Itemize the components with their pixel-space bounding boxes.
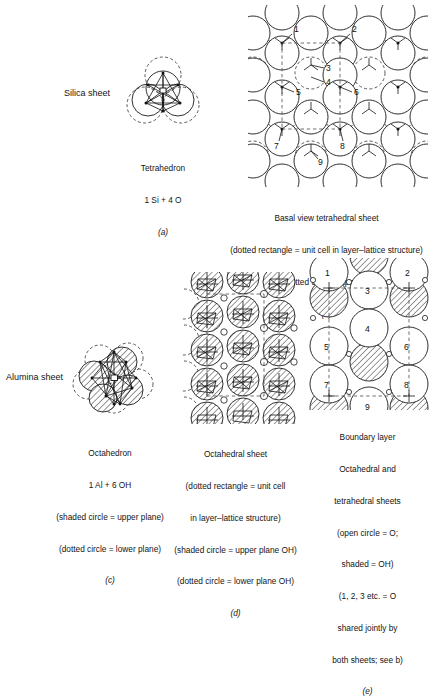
panel-d-caption-line-4: (dotted circle = lower plane OH) bbox=[148, 576, 323, 587]
panel-e-caption-line-6: shared jointly by bbox=[300, 623, 435, 634]
panel-d-caption: Octahedral sheet (dotted rectangle = uni… bbox=[148, 428, 323, 640]
panel-d-caption-line-1: (dotted rectangle = unit cell bbox=[148, 481, 323, 492]
panel-e-caption-line-3: (open circle = O; bbox=[300, 528, 435, 539]
panel-b-number-2: 2 bbox=[352, 24, 357, 34]
panel-c-drawing bbox=[70, 338, 162, 424]
panel-e-number-1: 1 bbox=[325, 268, 330, 278]
panel-b-number-8: 8 bbox=[340, 141, 345, 151]
panel-b-number-3: 3 bbox=[326, 63, 331, 73]
panel-e-caption: Boundary layer Octahedral and tetrahedra… bbox=[300, 411, 435, 700]
panel-b-number-1: 1 bbox=[294, 24, 299, 34]
panel-e-number-7: 7 bbox=[324, 380, 329, 390]
panel-a-caption-line-1: 1 Si + 4 O bbox=[93, 195, 233, 206]
panel-e-caption-line-2: tetrahedral sheets bbox=[300, 496, 435, 507]
panel-b-tetrahedral-sheet: 1 2 3 4 5 6 7 8 9 bbox=[248, 5, 428, 187]
panel-b-caption-line-0: Basal view tetrahedral sheet bbox=[218, 213, 435, 224]
panel-a-drawing bbox=[120, 55, 206, 141]
panel-e-key: (e) bbox=[300, 686, 435, 697]
alumina-sheet-label: Alumina sheet bbox=[6, 372, 63, 382]
panel-b-number-5: 5 bbox=[296, 87, 301, 97]
panel-d-key: (d) bbox=[148, 608, 323, 619]
panel-e-number-5: 5 bbox=[324, 342, 329, 352]
panel-a-tetrahedron bbox=[120, 55, 206, 141]
panel-d-drawing bbox=[182, 272, 304, 424]
panel-d-octahedral-sheet bbox=[182, 272, 304, 424]
panel-e-number-8: 8 bbox=[404, 380, 409, 390]
panel-b-drawing: 1 2 3 4 5 6 7 8 9 bbox=[248, 5, 428, 187]
panel-d-caption-line-3: (shaded circle = upper plane OH) bbox=[148, 545, 323, 556]
panel-e-caption-line-0: Boundary layer bbox=[300, 432, 435, 443]
panel-e-caption-line-4: shaded = OH) bbox=[300, 559, 435, 570]
panel-e-caption-line-7: both sheets; see b) bbox=[300, 655, 435, 666]
panel-b-number-6: 6 bbox=[354, 87, 359, 97]
panel-a-caption-line-0: Tetrahedron bbox=[93, 163, 233, 174]
panel-d-caption-line-2: in layer–lattice structure) bbox=[148, 513, 323, 524]
silica-sheet-label: Silica sheet bbox=[64, 88, 110, 98]
panel-b-number-7: 7 bbox=[274, 141, 279, 151]
panel-e-number-4: 4 bbox=[365, 324, 370, 334]
panel-e-number-6: 6 bbox=[404, 342, 409, 352]
panel-a-caption: Tetrahedron 1 Si + 4 O (a) bbox=[93, 142, 233, 259]
panel-e-number-3: 3 bbox=[365, 286, 370, 296]
panel-c-octahedron bbox=[70, 338, 162, 424]
panel-e-caption-line-5: (1, 2, 3 etc. = O bbox=[300, 591, 435, 602]
panel-b-caption-line-1: (dotted rectangle = unit cell in layer–l… bbox=[218, 245, 435, 256]
panel-d-caption-line-0: Octahedral sheet bbox=[148, 449, 323, 460]
panel-e-boundary-layer: 1 2 3 4 5 6 7 8 9 bbox=[303, 258, 435, 410]
panel-e-number-2: 2 bbox=[405, 268, 410, 278]
panel-a-key: (a) bbox=[93, 227, 233, 238]
panel-e-drawing: 1 2 3 4 5 6 7 8 9 bbox=[303, 258, 435, 410]
panel-e-caption-line-1: Octahedral and bbox=[300, 464, 435, 475]
panel-b-number-9: 9 bbox=[318, 157, 323, 167]
panel-b-number-4: 4 bbox=[326, 77, 331, 87]
